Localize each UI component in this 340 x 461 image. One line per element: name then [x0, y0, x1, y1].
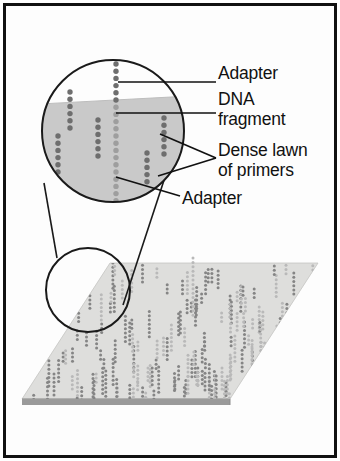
- lawn-dot: [99, 358, 102, 361]
- dot-col-center-main: [113, 76, 118, 81]
- lawn-dot: [76, 382, 79, 385]
- dot-col-left-lower: [55, 133, 60, 138]
- lawn-dot: [244, 310, 247, 313]
- lawn-dot: [194, 307, 197, 310]
- lawn-dot: [223, 380, 226, 383]
- lawn-dot: [241, 353, 244, 356]
- lawn-dot: [130, 269, 133, 272]
- lawn-dot: [132, 375, 135, 378]
- lawn-dot: [77, 320, 80, 323]
- lawn-dot: [236, 329, 239, 332]
- lawn-dot: [128, 396, 131, 399]
- dot-col-right-lower: [144, 165, 149, 170]
- lawn-dot: [110, 300, 113, 303]
- lawn-dot: [80, 394, 83, 397]
- lawn-dot: [241, 370, 244, 373]
- lawn-dot: [242, 285, 245, 288]
- lawn-dot: [251, 358, 254, 361]
- lawn-dot: [186, 303, 189, 306]
- lawn-dot: [130, 327, 133, 330]
- lawn-dot: [187, 392, 190, 395]
- lawn-dot: [208, 380, 211, 383]
- lawn-dot: [217, 270, 220, 273]
- lawn-dot: [196, 371, 199, 374]
- lawn-dot: [279, 330, 282, 333]
- lawn-dot: [181, 284, 184, 287]
- lawn-dot: [186, 292, 189, 295]
- lawn-dot: [124, 319, 127, 322]
- lawn-dot: [200, 297, 203, 300]
- lawn-dot: [64, 353, 67, 356]
- lawn-dot: [247, 339, 250, 342]
- lawn-dot: [187, 371, 190, 374]
- lawn-dot: [204, 362, 207, 365]
- lawn-dot: [162, 336, 165, 339]
- lawn-dot: [253, 292, 256, 295]
- lawn-dot: [253, 296, 256, 299]
- lawn-dot: [156, 356, 159, 359]
- lawn-dot: [121, 296, 124, 299]
- lawn-dot: [201, 382, 204, 385]
- lawn-dot: [258, 318, 261, 321]
- tall-cluster-dot: [192, 296, 195, 299]
- lawn-dot: [253, 288, 256, 291]
- lawn-dot: [162, 353, 165, 356]
- lawn-dot: [204, 372, 207, 375]
- lawn-dot: [76, 369, 79, 372]
- lawn-dot: [166, 358, 169, 361]
- lawn-dot: [203, 336, 206, 339]
- lawn-dot: [233, 347, 236, 350]
- lawn-dot: [53, 385, 56, 388]
- dot-col-center-mid: [95, 125, 100, 130]
- lawn-dot: [204, 284, 207, 287]
- dot-col-center-main: [113, 169, 118, 174]
- flow-cell-surface: [22, 263, 318, 405]
- lawn-dot: [275, 287, 278, 290]
- dot-col-center-main: [113, 205, 118, 210]
- lawn-dot: [181, 288, 184, 291]
- lawn-dot: [192, 359, 195, 362]
- lawn-dot: [292, 284, 295, 287]
- dot-col-left-lower: [55, 148, 60, 153]
- lawn-dot: [166, 350, 169, 353]
- dot-col-center-main: [113, 227, 118, 232]
- lawn-dot: [148, 331, 151, 334]
- lawn-dot: [187, 375, 190, 378]
- lawn-dot: [124, 327, 127, 330]
- lawn-dot: [247, 343, 250, 346]
- lawn-dot: [148, 335, 151, 338]
- tall-cluster-dot: [192, 279, 195, 282]
- lawn-dot: [76, 390, 79, 393]
- lawn-dot: [85, 335, 88, 338]
- lawn-dot: [136, 340, 139, 343]
- lawn-dot: [273, 273, 276, 276]
- lawn-dot: [93, 384, 96, 387]
- lawn-dot: [112, 379, 115, 382]
- lawn-dot: [186, 280, 189, 283]
- lawn-dot: [128, 392, 131, 395]
- lawn-dot: [201, 356, 204, 359]
- lawn-dot: [88, 307, 91, 310]
- lawn-dot: [279, 325, 282, 328]
- dot-col-center-main: [113, 83, 118, 88]
- lawn-dot: [213, 405, 216, 408]
- lawn-dot: [226, 375, 229, 378]
- lawn-dot: [213, 392, 216, 395]
- lawn-dot: [57, 363, 60, 366]
- lawn-dot: [173, 372, 176, 375]
- lawn-dot: [76, 334, 79, 337]
- lawn-dot: [141, 386, 144, 389]
- lawn-dot: [157, 378, 160, 381]
- lawn-dot: [110, 296, 113, 299]
- lawn-dot: [85, 340, 88, 343]
- lawn-dot: [53, 372, 56, 375]
- lawn-dot: [64, 358, 67, 361]
- lawn-dot: [201, 378, 204, 381]
- lawn-dot: [242, 316, 245, 319]
- surface-top: [22, 263, 318, 399]
- lawn-dot: [88, 303, 91, 306]
- lawn-dot: [260, 358, 263, 361]
- lawn-dot: [187, 383, 190, 386]
- lawn-dot: [233, 343, 236, 346]
- lawn-dot: [181, 292, 184, 295]
